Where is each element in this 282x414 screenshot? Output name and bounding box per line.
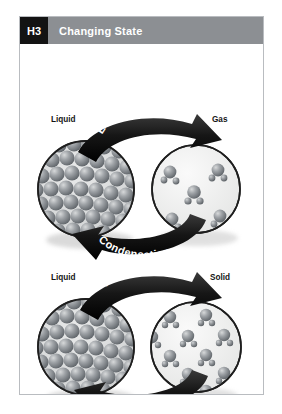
diagram-liquid-gas: Evaporation Condensation Liquid Gas xyxy=(28,96,240,260)
label-gas: Gas xyxy=(212,115,228,124)
section-header: H3 Changing State xyxy=(20,17,263,44)
heading-level-tag: H3 xyxy=(20,17,48,44)
diagram-liquid-solid: Freezing Melting Liquid Solid xyxy=(28,254,241,394)
page-title: Changing State xyxy=(59,25,142,37)
states-of-matter-svg: Evaporation Condensation Liquid Gas xyxy=(20,44,263,394)
label-liquid-bottom: Liquid xyxy=(51,273,76,282)
changing-state-figure: Evaporation Condensation Liquid Gas xyxy=(20,44,263,394)
content-card: H3 Changing State xyxy=(19,16,264,395)
header-title-bar: Changing State xyxy=(48,17,263,44)
label-solid: Solid xyxy=(210,273,230,282)
page-root: H3 Changing State xyxy=(0,0,282,414)
label-liquid-top: Liquid xyxy=(51,115,76,124)
